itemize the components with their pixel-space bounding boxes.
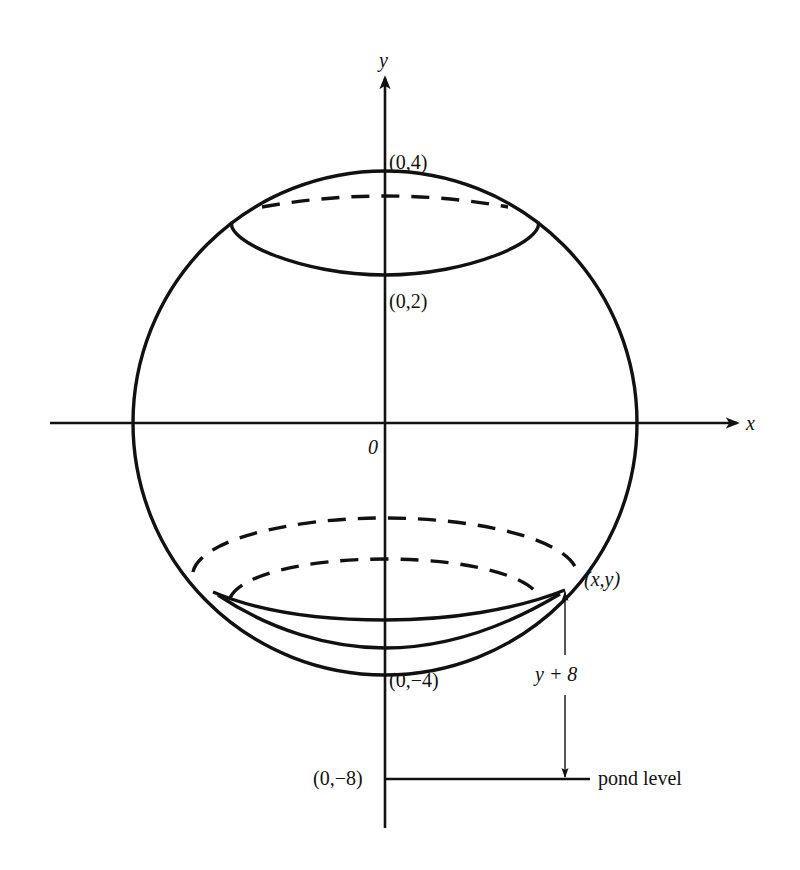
height-annotation: y + 8	[535, 664, 577, 684]
diagram-canvas	[0, 0, 800, 870]
pond-level-label: pond level	[598, 768, 682, 788]
y-axis-label: y	[379, 50, 388, 70]
x-axis-label: x	[746, 413, 755, 433]
height-annotation-text: y + 8	[535, 663, 577, 685]
point-label-bottom: (0,−4)	[389, 670, 439, 690]
point-label-slice: (x,y)	[584, 569, 620, 589]
slice-solid-edge	[213, 590, 565, 620]
point-label-top: (0,4)	[389, 152, 427, 172]
origin-label: 0	[368, 437, 378, 457]
point-label-pond: (0,−8)	[313, 768, 363, 788]
point-label-cap-bottom: (0,2)	[389, 291, 427, 311]
sphere-pond-diagram: y x 0 (0,4) (0,2) (0,−4) (0,−8) (x,y) y …	[0, 0, 800, 870]
